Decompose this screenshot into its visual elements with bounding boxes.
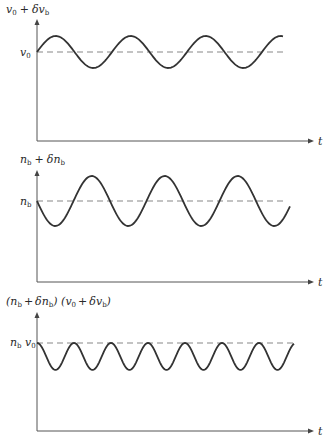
product-curve	[37, 343, 294, 370]
x-axis-arrow-icon	[308, 139, 314, 144]
baseline-label-nb: nb	[20, 195, 32, 209]
x-axis-arrow-icon	[308, 280, 314, 285]
x-axis-arrow-icon	[308, 429, 314, 434]
ylabel-velocity: v0+δvb	[6, 3, 50, 17]
panel-product: (nb+δnb) (v0+δvb) t nb v0	[6, 295, 323, 438]
y-axis-arrow-icon	[35, 170, 40, 176]
t-label: t	[318, 425, 323, 438]
t-label: t	[318, 135, 323, 148]
baseline-label-v0: v0	[20, 46, 31, 60]
y-axis-arrow-icon	[35, 312, 40, 318]
panel-velocity: v0+δvb t v0	[6, 3, 323, 148]
ylabel-product: (nb+δnb) (v0+δvb)	[6, 295, 111, 309]
ylabel-density: nb+δnb	[20, 153, 66, 167]
t-label: t	[318, 276, 323, 289]
wave-figure: v0+δvb t v0 nb+δnb t nb (nb+δnb) (v0+δvb…	[0, 0, 331, 440]
baseline-label-nbv0: nb v0	[10, 336, 36, 350]
y-axis-arrow-icon	[35, 19, 40, 25]
panel-density: nb+δnb t nb	[20, 153, 323, 289]
